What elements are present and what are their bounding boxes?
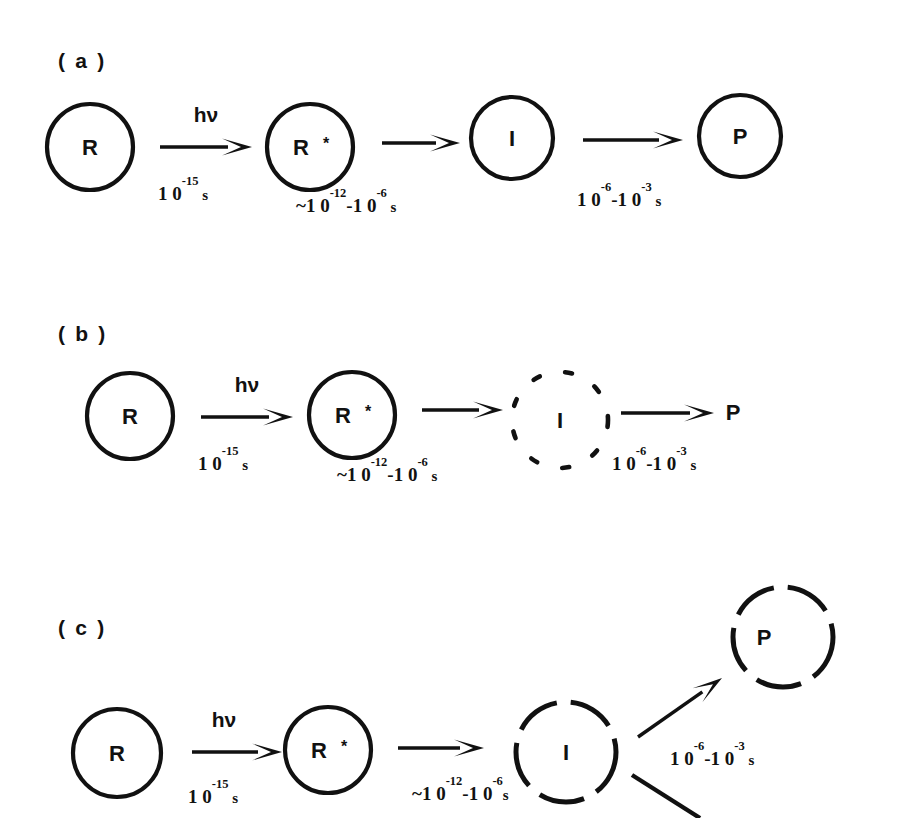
timescale-branch-time-c: 1 0-6-1 0-3 s [670,739,754,769]
node-intermediate-a: I [471,97,553,179]
line-branch-to-second-path-c [632,775,700,818]
species-label-product-a: P [733,124,748,149]
node-reactant-a: R [47,104,133,190]
arrow-relaxation-c [398,740,484,757]
solid-circle-excited-a [267,104,353,190]
node-product-a: P [699,95,781,177]
node-product-c: P [733,587,833,687]
timescale-formation-time-b: 1 0-6-1 0-3 s [612,444,696,474]
timescale-relaxation-time-c: ~1 0-12-1 0-6s [412,774,509,804]
excitation-star-excited-b: * [365,403,372,420]
timescale-formation-time-a: 1 0-6-1 0-3 s [577,180,661,210]
dashed-circle-product-c [733,587,833,687]
timescale-excitation-time-c: 1 0-15 s [188,777,238,807]
species-label-excited-a: R [293,135,309,160]
arrow-relaxation-a [382,135,460,152]
photon-label-c: hν [212,708,237,731]
species-label-reactant-c: R [109,741,125,766]
timescale-excitation-time-b: 1 0-15 s [198,444,248,474]
arrow-excitation-b [201,409,293,426]
arrow-excitation-a [160,139,252,156]
panel-c: ( c )hν1 0-15 s~1 0-12-1 0-6s1 0-6-1 0-3… [58,587,833,818]
species-label-product-c: P [757,625,772,650]
node-product-b: P [726,400,741,425]
species-label-intermediate-b: I [557,408,563,433]
node-reactant-b: R [87,373,173,459]
panel-label-b: ( b ) [58,322,107,345]
arrow-formation-b [621,405,714,422]
excitation-star-excited-a: * [323,135,330,152]
reaction-scheme-canvas: ( a )hν1 0-15 s~1 0-12-1 0-6 s1 0-6-1 0-… [0,0,917,818]
arrow-excitation-c [192,744,282,761]
panel-label-c: ( c ) [58,616,106,639]
solid-circle-excited-b [309,372,395,458]
species-label-excited-c: R [311,738,327,763]
node-reactant-c: R [73,709,161,797]
species-label-excited-b: R [335,403,351,428]
node-intermediate-c: I [516,702,616,802]
panel-label-a: ( a ) [58,49,106,72]
node-excited-c: R* [285,707,371,793]
solid-circle-excited-c [285,707,371,793]
photon-label-a: hν [194,103,219,126]
species-label-intermediate-a: I [509,126,515,151]
arrow-branch-to-product-c [638,678,722,737]
species-label-intermediate-c: I [563,740,569,765]
arrow-formation-a [583,132,683,149]
excitation-star-excited-c: * [341,738,348,755]
panel-b: ( b )hν1 0-15 s~1 0-12-1 0-6 s1 0-6-1 0-… [58,322,740,485]
species-label-product-b: P [726,400,741,425]
species-label-reactant-b: R [122,404,138,429]
reaction-scheme-figure: ( a )hν1 0-15 s~1 0-12-1 0-6 s1 0-6-1 0-… [0,0,917,818]
node-intermediate-b: I [512,372,608,468]
species-label-reactant-a: R [82,135,98,160]
node-excited-b: R* [309,372,395,458]
photon-label-b: hν [235,373,260,396]
panel-a: ( a )hν1 0-15 s~1 0-12-1 0-6 s1 0-6-1 0-… [47,49,781,216]
node-excited-a: R* [267,104,353,190]
timescale-excitation-time-a: 1 0-15 s [158,174,208,204]
arrow-relaxation-b [422,402,503,419]
